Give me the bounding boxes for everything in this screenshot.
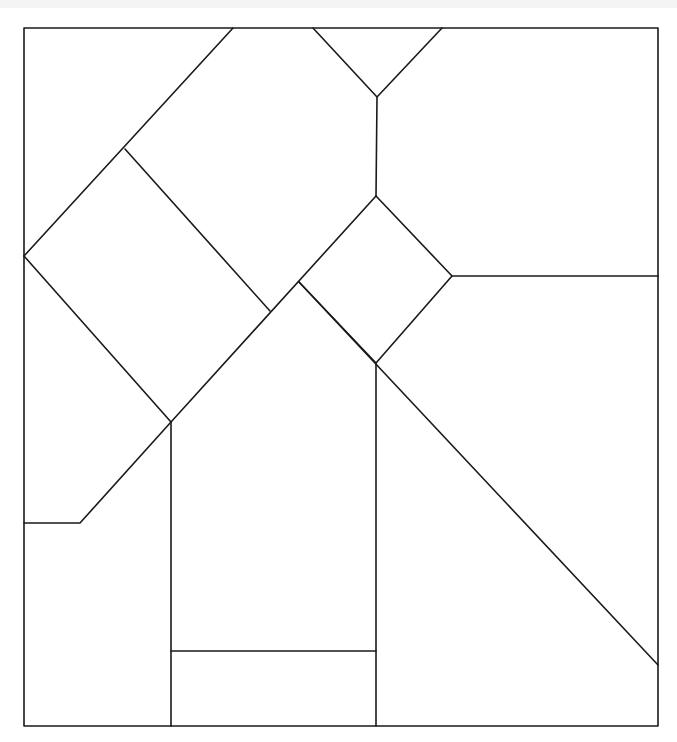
center-diagonal [171,196,376,422]
center-vertical-upper [376,97,377,196]
rect-bottom-edge [24,256,171,422]
top-left-diagonal [24,28,233,256]
lower-right-diagonal [299,282,658,665]
outer-frame [24,28,658,726]
diamond [299,196,452,363]
rect-right-edge [125,149,270,311]
dissection-diagram [0,0,677,742]
top-v-shape [313,28,442,97]
left-bent-path [24,422,171,523]
